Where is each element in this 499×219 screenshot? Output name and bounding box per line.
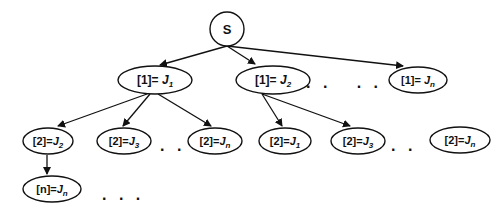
node-label-prefix: [1]= — [137, 73, 162, 87]
node-label-sub: 1 — [296, 141, 301, 150]
node-label-prefix: [1]= — [255, 73, 280, 87]
node-l1-jn: [1]= Jn — [389, 67, 447, 93]
node-l2-j3: [2]=J3 — [97, 128, 151, 154]
node-label-sub: 1 — [169, 80, 174, 89]
ellipsis-level1: . . . . — [306, 74, 382, 91]
node-label-prefix: [n]= — [36, 183, 56, 195]
node-label-prefix: [2]= — [270, 135, 290, 147]
edge-j1-to-j2 — [58, 94, 147, 126]
edge-s-to-j1 — [160, 46, 227, 65]
diagram-svg: S [1]= J1 [1]= J2 . . . . [1]= Jn [2]=J2… — [0, 0, 499, 219]
node-label-prefix: [1]= — [401, 74, 424, 86]
node-l1-j1: [1]= J1 — [118, 66, 192, 94]
node-label-prefix: [2]= — [109, 135, 129, 147]
node-label-prefix: [2]= — [33, 135, 53, 147]
node-l2-jn-left: [2]=Jn — [188, 128, 242, 154]
node-label-sub: 3 — [369, 141, 374, 150]
node-root: S — [210, 12, 244, 46]
edges-root — [160, 46, 403, 66]
svg-text:[1]= J1: [1]= J1 — [137, 73, 174, 89]
node-l2-j1: [2]=J1 — [259, 128, 311, 154]
node-label-sub: n — [430, 80, 435, 89]
root-label: S — [223, 22, 232, 37]
node-l1-j2: [1]= J2 — [236, 66, 310, 94]
ellipsis-level2-right: . . — [391, 137, 416, 154]
node-label-sub: n — [63, 189, 68, 198]
edge-j1-to-j3 — [123, 94, 150, 126]
node-l3-jn: [n]=Jn — [23, 176, 81, 202]
node-label-sub: n — [226, 141, 231, 150]
ellipsis-level3: . . . — [102, 186, 144, 203]
edges-level1 — [58, 94, 350, 126]
node-label-sub: 3 — [135, 141, 140, 150]
node-label-prefix: [2]= — [200, 135, 220, 147]
node-l2-j2: [2]=J2 — [23, 128, 73, 154]
edge-j1-to-jn — [158, 94, 211, 126]
node-label-prefix: [2]= — [445, 134, 465, 146]
node-label-sub: n — [471, 140, 476, 149]
search-tree-diagram: S [1]= J1 [1]= J2 . . . . [1]= Jn [2]=J2… — [0, 0, 499, 219]
node-l2-j3-right: [2]=J3 — [331, 128, 385, 154]
svg-text:[1]= J2: [1]= J2 — [255, 73, 292, 89]
ellipsis-level2-left: . . — [160, 137, 185, 154]
edge-j2-to-j3 — [262, 94, 350, 126]
node-l2-jn-right: [2]=Jn — [430, 127, 490, 153]
edge-j2-to-j1 — [262, 94, 282, 126]
node-label-prefix: [2]= — [343, 135, 363, 147]
node-label-sub: 2 — [58, 141, 64, 150]
node-label-sub: 2 — [286, 80, 292, 89]
